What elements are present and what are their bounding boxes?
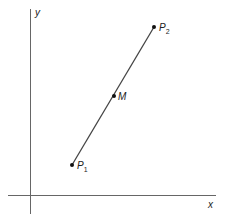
point-p1: P1 (70, 160, 88, 173)
point-p2-dot (152, 25, 156, 29)
point-p1-label: P1 (77, 160, 88, 173)
x-axis-label: x (207, 199, 214, 210)
y-axis-label: y (34, 7, 41, 18)
point-p2-label: P2 (159, 22, 170, 35)
point-m-dot (112, 94, 116, 98)
midpoint-diagram: y x P1 M P2 (0, 0, 230, 224)
point-p2: P2 (152, 22, 170, 35)
point-p1-dot (70, 163, 74, 167)
point-m-label: M (118, 91, 127, 102)
